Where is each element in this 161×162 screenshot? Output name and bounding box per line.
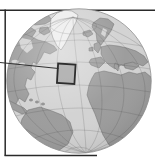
locator-map-thumbnail[interactable] (0, 0, 161, 162)
globe-shading (7, 9, 151, 153)
highlight-region-marker (57, 63, 76, 84)
globe (0, 9, 161, 154)
world-map-globe (0, 0, 161, 162)
